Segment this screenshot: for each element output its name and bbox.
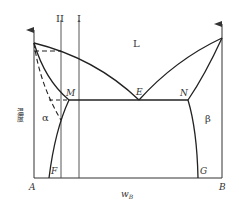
y-axis-label: 温度 xyxy=(16,107,25,123)
alloy-label-i: I xyxy=(77,13,81,24)
liquid-phase-label: L xyxy=(133,38,140,49)
x-axis-label: wB xyxy=(121,189,134,200)
component-a-label: A xyxy=(28,182,36,192)
alpha-phase-label: α xyxy=(42,112,49,123)
point-m-label: M xyxy=(65,88,76,98)
point-g-label: G xyxy=(200,166,207,176)
point-e-label: E xyxy=(135,87,143,97)
beta-phase-label: β xyxy=(205,113,211,124)
phase-diagram: II I L M E N α β F G A B wB 温度 xyxy=(0,0,239,210)
alloy-label-ii: II xyxy=(56,13,64,24)
point-f-label: F xyxy=(50,166,58,176)
component-b-label: B xyxy=(218,182,226,192)
point-n-label: N xyxy=(179,88,189,98)
solvus-right xyxy=(188,100,198,178)
liquidus-left xyxy=(34,43,139,100)
